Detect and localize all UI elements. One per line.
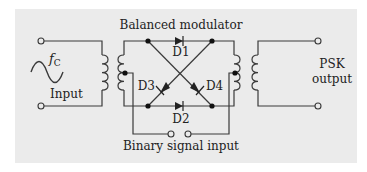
output-label-line1: PSK [319, 57, 345, 71]
output-terminal-bottom[interactable] [315, 103, 321, 109]
diode-label-d2: D2 [172, 112, 189, 126]
psk-balanced-modulator-diagram: Balanced modulator fC Input PSK output B… [0, 0, 367, 172]
binary-terminal-right[interactable] [185, 131, 191, 137]
output-terminal-top[interactable] [315, 38, 321, 44]
center-tap-dot-left [122, 70, 127, 75]
junction-dot [209, 103, 214, 108]
title-label: Balanced modulator [120, 18, 243, 32]
junction-dot [145, 38, 150, 43]
input-terminal-top[interactable] [38, 38, 44, 44]
junction-dot [145, 103, 150, 108]
input-terminal-bottom[interactable] [38, 103, 44, 109]
binary-terminal-left[interactable] [168, 131, 174, 137]
diode-label-d1: D1 [172, 45, 189, 59]
binary-input-label: Binary signal input [123, 139, 239, 153]
input-label: Input [50, 87, 83, 101]
center-tap-dot-right [232, 70, 237, 75]
diode-label-d3: D3 [138, 79, 155, 93]
output-label-line2: output [312, 72, 352, 86]
junction-dot [209, 38, 214, 43]
diode-label-d4: D4 [206, 79, 224, 93]
